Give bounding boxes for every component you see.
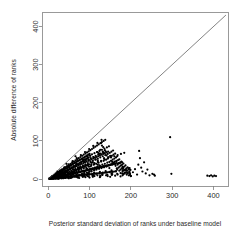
y-axis-title: Absolute difference of ranks [10, 58, 17, 140]
y-tick-label: 300 [31, 58, 40, 70]
y-tick-label: 0 [31, 177, 40, 181]
x-tick-label: 200 [125, 191, 137, 200]
y-tick-label: 400 [31, 20, 40, 32]
x-tick-label: 100 [83, 191, 95, 200]
y-tick-label: 200 [31, 97, 40, 109]
x-axis-title: Posterior standard deviation of ranks un… [49, 220, 222, 227]
x-tick-label: 0 [46, 191, 50, 200]
y-tick-label: 100 [31, 135, 40, 147]
x-tick-label: 400 [207, 191, 219, 200]
scatter-plot-figure: 01002003004000100200300400 Posterior sta… [0, 0, 240, 236]
x-tick-label: 300 [166, 191, 178, 200]
plot-canvas: 01002003004000100200300400 Posterior sta… [0, 0, 240, 236]
